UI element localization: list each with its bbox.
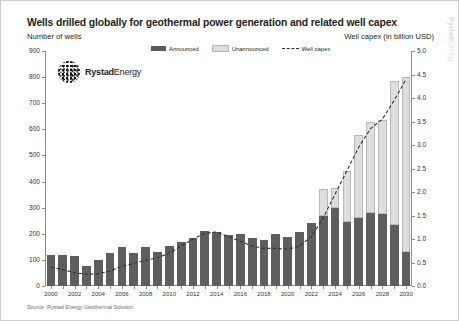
y-tick-right (412, 286, 415, 287)
rystad-watermark: RystadEnergy (448, 17, 455, 62)
y-tick-label-right: 2.5 (417, 165, 426, 172)
y-tick-label-right: 1.5 (417, 212, 426, 219)
y-tick-left (42, 129, 45, 130)
x-tick (371, 286, 372, 289)
x-tick (382, 286, 383, 289)
x-tick-label-2008: 2008 (139, 291, 152, 297)
y-tick-label-right: 4.0 (417, 94, 426, 101)
x-tick (311, 286, 312, 289)
x-tick-label-2022: 2022 (305, 291, 318, 297)
y-tick-left (42, 155, 45, 156)
x-tick (86, 286, 87, 289)
page-title: Wells drilled globally for geothermal po… (27, 17, 397, 28)
y-tick-label-left: 200 (29, 230, 40, 237)
y-tick-left (42, 208, 45, 209)
x-tick-label-2000: 2000 (44, 291, 57, 297)
y-tick-label-right: 2.0 (417, 188, 426, 195)
x-tick (252, 286, 253, 289)
y-tick-right (412, 98, 415, 99)
plot-area: 01002003004005006007008009000.00.51.01.5… (45, 51, 412, 286)
y-tick-label-left: 0 (36, 282, 40, 289)
x-tick-label-2004: 2004 (92, 291, 105, 297)
x-tick (181, 286, 182, 289)
x-tick (63, 286, 64, 289)
x-tick (157, 286, 158, 289)
y-tick-label-right: 0.5 (417, 259, 426, 266)
y-tick-right (412, 239, 415, 240)
y-tick-label-left: 300 (29, 204, 40, 211)
y-tick-left (42, 286, 45, 287)
capex-polyline (51, 79, 406, 274)
x-tick (217, 286, 218, 289)
x-tick (75, 286, 76, 289)
y-axis-title-right: Well capex (in billion USD) (344, 32, 434, 41)
y-tick-right (412, 75, 415, 76)
y-tick-right (412, 51, 415, 52)
y-tick-right (412, 216, 415, 217)
x-tick (323, 286, 324, 289)
x-tick (110, 286, 111, 289)
x-tick-label-2020: 2020 (281, 291, 294, 297)
y-tick-right (412, 263, 415, 264)
y-tick-label-right: 5.0 (417, 47, 426, 54)
y-tick-left (42, 51, 45, 52)
y-tick-label-left: 100 (29, 256, 40, 263)
x-tick (335, 286, 336, 289)
x-tick (394, 286, 395, 289)
y-tick-left (42, 103, 45, 104)
y-tick-right (412, 122, 415, 123)
y-tick-label-left: 900 (29, 47, 40, 54)
y-tick-left (42, 182, 45, 183)
x-tick-label-2016: 2016 (234, 291, 247, 297)
x-tick-label-2006: 2006 (115, 291, 128, 297)
x-tick-label-2028: 2028 (376, 291, 389, 297)
y-tick-label-right: 4.5 (417, 71, 426, 78)
x-tick (288, 286, 289, 289)
x-tick (406, 286, 407, 289)
x-tick (193, 286, 194, 289)
x-tick-label-2012: 2012 (186, 291, 199, 297)
y-tick-label-right: 3.5 (417, 118, 426, 125)
x-tick (347, 286, 348, 289)
y-tick-label-left: 800 (29, 73, 40, 80)
y-tick-left (42, 234, 45, 235)
y-tick-label-left: 500 (29, 151, 40, 158)
source-note: Source: Rystad Energy Geothermal Solutio… (27, 304, 133, 310)
y-tick-label-right: 0.0 (417, 282, 426, 289)
x-tick (240, 286, 241, 289)
y-tick-label-right: 3.0 (417, 141, 426, 148)
x-tick (146, 286, 147, 289)
y-tick-label-left: 400 (29, 178, 40, 185)
x-tick (122, 286, 123, 289)
x-tick (169, 286, 170, 289)
y-axis-title-left: Number of wells (27, 32, 81, 41)
x-tick (264, 286, 265, 289)
y-tick-right (412, 145, 415, 146)
x-tick (51, 286, 52, 289)
x-tick (205, 286, 206, 289)
x-tick (229, 286, 230, 289)
y-tick-label-left: 700 (29, 99, 40, 106)
y-tick-label-left: 600 (29, 125, 40, 132)
x-tick (134, 286, 135, 289)
x-tick (276, 286, 277, 289)
x-tick-label-2010: 2010 (163, 291, 176, 297)
y-tick-left (42, 260, 45, 261)
x-tick (359, 286, 360, 289)
y-tick-label-right: 1.0 (417, 235, 426, 242)
x-tick-label-2002: 2002 (68, 291, 81, 297)
x-tick-label-2014: 2014 (210, 291, 223, 297)
x-tick-label-2026: 2026 (352, 291, 365, 297)
x-tick-label-2030: 2030 (399, 291, 412, 297)
y-tick-left (42, 77, 45, 78)
x-tick (300, 286, 301, 289)
x-tick-label-2018: 2018 (257, 291, 270, 297)
chart-page: Wells drilled globally for geothermal po… (0, 0, 459, 321)
x-tick (98, 286, 99, 289)
y-tick-right (412, 169, 415, 170)
y-tick-right (412, 192, 415, 193)
well-capex-line (45, 51, 412, 286)
legend-swatch-line (282, 48, 299, 49)
x-tick-label-2024: 2024 (328, 291, 341, 297)
